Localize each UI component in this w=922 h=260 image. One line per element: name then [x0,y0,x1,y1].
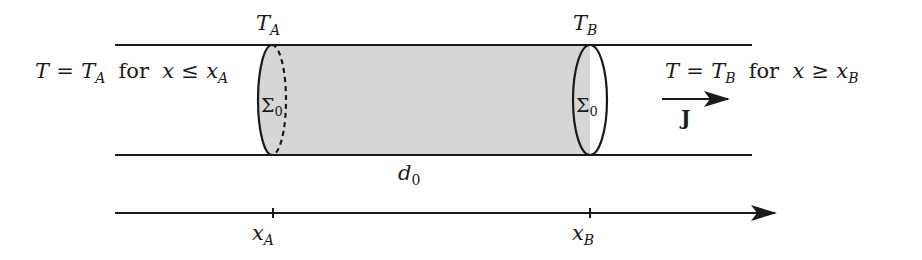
label-axis-x-b: xB [572,221,594,248]
label-axis-x-a: xA [252,221,274,248]
right-boundary-condition: T = TB for x ≥ xB [665,59,859,88]
label-flux-j: J [679,106,690,130]
label-length-d0: d0 [398,161,420,188]
heat-conduction-tube-diagram: TA TB T = TA for x ≤ xA T = TB for x ≥ x… [0,0,922,260]
label-right-section-area: Σ0 [576,94,598,119]
shaded-tube-segment [258,45,590,155]
label-temp-a: TA [256,11,280,38]
left-boundary-condition: T = TA for x ≤ xA [35,59,228,88]
label-temp-b: TB [573,11,597,38]
